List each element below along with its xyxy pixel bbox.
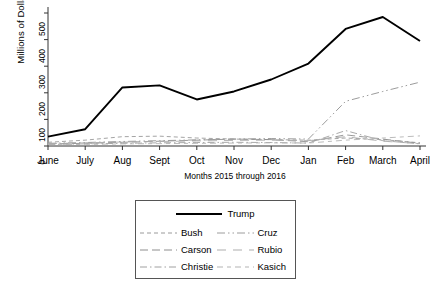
legend-swatch-christie	[140, 263, 177, 271]
legend-item-rubio: Rubio	[217, 241, 292, 258]
x-tick-label: April	[396, 155, 430, 166]
legend-label-kasich: Kasich	[258, 262, 287, 272]
legend-label-christie: Christie	[181, 262, 213, 272]
legend-swatch-carson	[140, 246, 177, 254]
legend-swatch-cruz	[217, 229, 254, 237]
legend-swatch-bush	[140, 229, 177, 237]
series-line-trump	[48, 17, 420, 137]
chart-figure: Millions of Dollars 0100200300400500 Jun…	[0, 0, 430, 292]
legend-item-bush: Bush	[140, 224, 215, 241]
legend-item-christie: Christie	[140, 258, 215, 275]
chart-legend: Trump BushCruzCarsonRubioChristieKasich	[135, 200, 296, 279]
legend-swatch-rubio	[217, 246, 254, 254]
legend-label-bush: Bush	[181, 228, 203, 238]
legend-item-carson: Carson	[140, 241, 215, 258]
legend-swatch-kasich	[217, 263, 254, 271]
legend-label-cruz: Cruz	[258, 228, 278, 238]
plot-area	[0, 0, 430, 152]
legend-label-rubio: Rubio	[258, 245, 283, 255]
legend-label-trump: Trump	[227, 209, 254, 219]
legend-swatch-trump	[176, 210, 222, 218]
series-line-rubio	[48, 137, 420, 144]
x-axis-title: Months 2015 through 2016	[48, 171, 422, 181]
legend-item-cruz: Cruz	[217, 224, 292, 241]
legend-item-trump: Trump	[136, 201, 295, 224]
legend-item-kasich: Kasich	[217, 258, 292, 275]
legend-label-carson: Carson	[181, 245, 212, 255]
